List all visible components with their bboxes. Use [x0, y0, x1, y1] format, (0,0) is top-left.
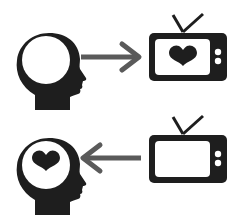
row-top — [17, 14, 227, 110]
arrow-left-icon — [83, 145, 141, 171]
tv-icon — [149, 14, 227, 81]
head-icon — [17, 138, 87, 215]
head-icon — [17, 33, 87, 110]
tv-icon — [149, 116, 227, 183]
arrow-right-icon — [81, 44, 139, 70]
row-bottom — [17, 116, 227, 215]
head-mind-area — [22, 36, 70, 84]
diagram-canvas — [0, 0, 240, 222]
